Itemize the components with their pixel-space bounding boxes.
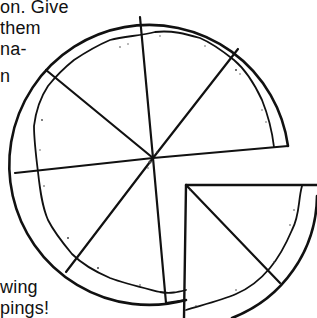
cut-line-lower-left bbox=[66, 158, 153, 272]
detached-slice bbox=[184, 185, 317, 318]
cut-line-right bbox=[153, 146, 288, 158]
pizza-diagram bbox=[0, 0, 317, 318]
cut-line-top bbox=[140, 17, 153, 158]
cut-line-bottom-edge bbox=[166, 300, 186, 303]
cut-line-bottom bbox=[153, 158, 166, 303]
cut-line-upper-left bbox=[46, 70, 153, 158]
cut-line-upper-right bbox=[153, 49, 238, 158]
